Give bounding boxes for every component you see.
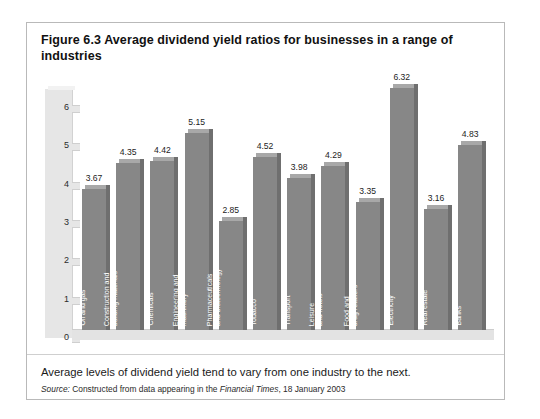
- bar[interactable]: Electricity: [390, 88, 414, 330]
- y-axis-tick-label: 6: [45, 102, 69, 112]
- bar-value-label: 3.16: [419, 193, 453, 203]
- figure-caption: Average levels of dividend yield tend to…: [41, 366, 491, 378]
- plot-floor: [72, 330, 494, 340]
- caption-divider: [27, 354, 504, 355]
- source-text-2: , 18 January 2003: [278, 384, 345, 394]
- y-axis-tick: [72, 105, 80, 113]
- bar-value-label: 4.83: [453, 129, 487, 139]
- source-text-1: Constructed from data appearing in the: [70, 384, 220, 394]
- figure-container: Figure 6.3 Average dividend yield ratios…: [26, 22, 505, 400]
- bar-value-label: 2.85: [214, 205, 248, 215]
- bar-slot[interactable]: Pharmaceuticalsand biotechnology2.85: [219, 81, 243, 330]
- y-axis-tick-label: 5: [45, 140, 69, 150]
- bar-slot[interactable]: Chemicals4.42: [150, 81, 174, 330]
- bar[interactable]: Food anddrug retailers: [356, 202, 380, 330]
- y-axis-tick: [72, 143, 80, 151]
- bar-slot[interactable]: Real estate3.16: [424, 81, 448, 330]
- y-axis-tick-label: 1: [45, 294, 69, 304]
- bar-slot[interactable]: Electricity6.32: [390, 81, 414, 330]
- y-axis-slab-top: [48, 86, 75, 90]
- chart-plot-area: 0123456 Oil and gas3.67Construction andb…: [38, 81, 494, 346]
- bar-value-label: 6.32: [385, 72, 419, 82]
- bar-side-face: [140, 159, 144, 330]
- bar-slot[interactable]: Construction andbuilding materials4.35: [116, 81, 140, 330]
- y-axis-tick-label: 2: [45, 255, 69, 265]
- y-axis-tick: [72, 220, 80, 228]
- y-axis-tick: [72, 258, 80, 266]
- bar-value-label: 3.98: [282, 162, 316, 172]
- source-prefix: Source:: [41, 384, 70, 394]
- bar-value-label: 4.35: [111, 147, 145, 157]
- bar-value-label: 4.42: [145, 145, 179, 155]
- bar-slot[interactable]: Tobacco4.52: [253, 81, 277, 330]
- bar-side-face: [243, 217, 247, 330]
- figure-title: Figure 6.3 Average dividend yield ratios…: [41, 32, 491, 64]
- bar-side-face: [448, 205, 452, 330]
- bar-slot[interactable]: Transport3.98: [287, 81, 311, 330]
- bar-value-label: 3.35: [351, 186, 385, 196]
- bar-side-face: [277, 153, 281, 330]
- y-axis: 0123456: [45, 89, 79, 338]
- y-axis-tick-label: 4: [45, 179, 69, 189]
- bar-value-label: 4.52: [248, 141, 282, 151]
- bar[interactable]: Real estate: [424, 209, 448, 330]
- bar-slot[interactable]: Banks4.83: [458, 81, 482, 330]
- bar[interactable]: Banks: [458, 145, 482, 330]
- bar-slot[interactable]: Leisureand hotels4.29: [321, 81, 345, 330]
- figure-source: Source: Constructed from data appearing …: [41, 384, 491, 394]
- bar-side-face: [380, 198, 384, 330]
- y-axis-tick-label: 3: [45, 217, 69, 227]
- bar[interactable]: Chemicals: [150, 161, 174, 330]
- bar[interactable]: Tobacco: [253, 157, 277, 330]
- bar-side-face: [414, 84, 418, 330]
- bar-value-label: 3.67: [77, 173, 111, 183]
- bar[interactable]: Leisureand hotels: [321, 166, 345, 330]
- bar-slot[interactable]: Food anddrug retailers3.35: [356, 81, 380, 330]
- bar[interactable]: Construction andbuilding materials: [116, 163, 140, 330]
- y-axis-tick-label: 0: [45, 332, 69, 342]
- bar-series: Oil and gas3.67Construction andbuilding …: [82, 89, 494, 330]
- bar-value-label: 5.15: [180, 117, 214, 127]
- bar-side-face: [482, 141, 486, 330]
- bar-value-label: 4.29: [316, 150, 350, 160]
- bar[interactable]: Pharmaceuticalsand biotechnology: [219, 221, 243, 330]
- source-italic: Financial Times: [220, 384, 279, 394]
